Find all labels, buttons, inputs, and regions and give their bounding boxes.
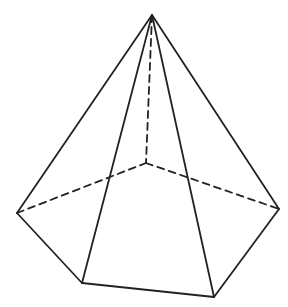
edge-left-front_left — [17, 213, 82, 283]
hidden-edge-back-right — [146, 163, 279, 209]
edge-apex-front_right — [152, 15, 214, 297]
edge-front_left-front_right — [82, 283, 214, 297]
edge-apex-left — [17, 15, 152, 213]
visible-edges — [17, 15, 279, 297]
hidden-edge-left-back — [17, 163, 146, 213]
edge-apex-front_left — [82, 15, 152, 283]
edge-apex-right — [152, 15, 279, 209]
pyramid-diagram — [0, 0, 288, 307]
pyramid-svg — [0, 0, 288, 307]
edge-front_right-right — [214, 209, 279, 297]
hidden-edges — [17, 15, 279, 213]
